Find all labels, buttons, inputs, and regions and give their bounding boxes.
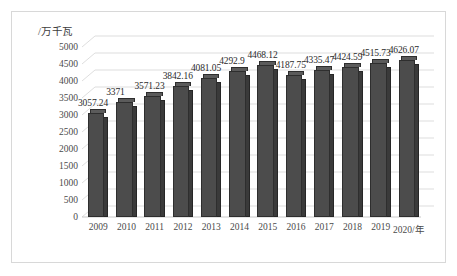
bar-front-face xyxy=(342,67,358,217)
bar-front-face xyxy=(201,78,217,217)
bar-top-face xyxy=(146,92,162,96)
bar-value-label: 4292.9 xyxy=(219,56,245,66)
bar-side-face xyxy=(246,75,250,217)
bar-chart-figure: /万千瓦 05001000150020002500300035004000450… xyxy=(0,0,457,276)
bar-value-label: 4424.59 xyxy=(332,52,362,62)
bar-value-label: 3057.24 xyxy=(78,98,108,108)
bar-side-face xyxy=(359,71,363,217)
bar-top-face xyxy=(203,74,219,78)
bar-top-face xyxy=(259,61,275,65)
bar-2019 xyxy=(370,63,386,217)
plot-area: 3057.2433713571.233842.164081.054292.944… xyxy=(82,47,434,217)
bar-2009 xyxy=(88,113,104,217)
bar-top-face xyxy=(90,109,106,113)
bar-2011 xyxy=(144,96,160,217)
y-tick-3000: 3000 xyxy=(59,110,78,120)
bar-front-face xyxy=(173,86,189,217)
bar-value-label: 3371 xyxy=(106,87,125,97)
bar-value-label: 4187.75 xyxy=(276,60,306,70)
y-tick-2000: 2000 xyxy=(59,144,78,154)
y-axis-tick-labels: 0500100015002000250030003500400045005000 xyxy=(36,47,78,217)
bar-front-face xyxy=(257,65,273,217)
bar-top-face xyxy=(175,82,191,86)
y-axis-unit-label: /万千瓦 xyxy=(38,23,73,38)
bar-front-face xyxy=(144,96,160,217)
x-tick-2011: 2011 xyxy=(145,222,164,232)
bar-top-face xyxy=(372,59,388,63)
x-tick-2016: 2016 xyxy=(286,222,305,232)
x-tick-2019: 2019 xyxy=(371,222,390,232)
bar-top-face xyxy=(316,66,332,70)
bar-2016 xyxy=(286,75,302,217)
bar-front-face xyxy=(116,102,132,217)
x-tick-2012: 2012 xyxy=(173,222,192,232)
bar-value-label: 4081.05 xyxy=(191,63,221,73)
bar-top-face xyxy=(118,98,134,102)
x-tick-2013: 2013 xyxy=(202,222,221,232)
bar-side-face xyxy=(104,117,108,217)
bar-2015 xyxy=(257,65,273,217)
bar-top-face xyxy=(401,56,417,60)
y-tick-4500: 4500 xyxy=(59,59,78,69)
y-tick-1000: 1000 xyxy=(59,178,78,188)
bar-2018 xyxy=(342,67,358,217)
x-tick-2018: 2018 xyxy=(343,222,362,232)
bar-2020 xyxy=(399,60,415,217)
bar-2014 xyxy=(229,71,245,217)
x-tick-2010: 2010 xyxy=(117,222,136,232)
bar-side-face xyxy=(302,79,306,217)
y-tick-2500: 2500 xyxy=(59,127,78,137)
y-tick-5000: 5000 xyxy=(59,42,78,52)
bar-side-face xyxy=(133,106,137,217)
bar-top-face xyxy=(231,67,247,71)
bar-side-face xyxy=(387,67,391,217)
bar-side-face xyxy=(161,100,165,217)
bars-layer: 3057.2433713571.233842.164081.054292.944… xyxy=(82,47,434,217)
bar-side-face xyxy=(217,82,221,217)
y-tick-0: 0 xyxy=(73,212,78,222)
bar-front-face xyxy=(314,70,330,217)
bar-side-face xyxy=(330,74,334,217)
bar-top-face xyxy=(344,63,360,67)
y-tick-4000: 4000 xyxy=(59,76,78,86)
bar-side-face xyxy=(189,90,193,217)
y-tick-3500: 3500 xyxy=(59,93,78,103)
x-tick-2020: 2020/年 xyxy=(393,222,425,236)
bar-front-face xyxy=(286,75,302,217)
y-tick-1500: 1500 xyxy=(59,161,78,171)
bar-value-label: 4468.12 xyxy=(247,50,277,60)
y-tick-500: 500 xyxy=(64,195,78,205)
bar-front-face xyxy=(229,71,245,217)
bar-side-face xyxy=(274,69,278,217)
bar-2010 xyxy=(116,102,132,217)
bar-value-label: 4515.73 xyxy=(360,48,390,58)
bar-value-label: 3571.23 xyxy=(134,81,164,91)
x-tick-2014: 2014 xyxy=(230,222,249,232)
bar-2017 xyxy=(314,70,330,217)
x-tick-2015: 2015 xyxy=(258,222,277,232)
x-axis-tick-labels: 2009201020112012201320142015201620172018… xyxy=(82,222,442,240)
bar-top-face xyxy=(288,71,304,75)
bar-2013 xyxy=(201,78,217,217)
bar-front-face xyxy=(88,113,104,217)
bar-front-face xyxy=(399,60,415,217)
bar-2012 xyxy=(173,86,189,217)
bar-value-label: 3842.16 xyxy=(163,71,193,81)
x-tick-2017: 2017 xyxy=(315,222,334,232)
bar-side-face xyxy=(415,64,419,217)
x-tick-2009: 2009 xyxy=(89,222,108,232)
bar-value-label: 4335.47 xyxy=(304,55,334,65)
bar-value-label: 4626.07 xyxy=(389,45,419,55)
bar-front-face xyxy=(370,63,386,217)
